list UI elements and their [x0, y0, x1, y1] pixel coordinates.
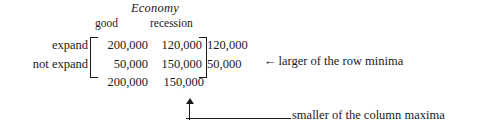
row-minimum-expand: 120,000	[207, 38, 248, 53]
row-label-not-expand: not expand	[33, 57, 88, 72]
column-maxima-annotation: smaller of the column maxima	[0, 96, 486, 127]
matrix-cell-expand-good: 200,000	[96, 38, 148, 53]
row-label-expand: expand	[52, 38, 88, 53]
payoff-matrix: expand not expand 200,000 120,000 50,000…	[0, 36, 486, 78]
matrix-cell-not-expand-recession: 150,000	[150, 57, 202, 72]
column-maxima-row: 200,000 150,000	[0, 75, 486, 95]
column-header-good: good	[95, 17, 118, 29]
matrix-cell-not-expand-good: 50,000	[96, 57, 148, 72]
column-maxima-annotation-label: smaller of the column maxima	[292, 108, 445, 123]
column-header-recession: recession	[150, 17, 193, 29]
figure-title: Economy	[131, 1, 179, 16]
row-minima-annotation-label: larger of the row minima	[279, 54, 404, 68]
leader-line	[186, 118, 291, 119]
row-label-group: expand not expand	[20, 36, 88, 78]
up-arrow-icon	[185, 98, 194, 119]
column-maximum-recession: 150,000	[150, 75, 204, 90]
matrix-cell-expand-recession: 120,000	[150, 38, 202, 53]
row-minimum-not-expand: 50,000	[207, 57, 241, 72]
left-arrow-icon: ←	[264, 53, 279, 68]
column-maximum-good: 200,000	[90, 75, 148, 90]
